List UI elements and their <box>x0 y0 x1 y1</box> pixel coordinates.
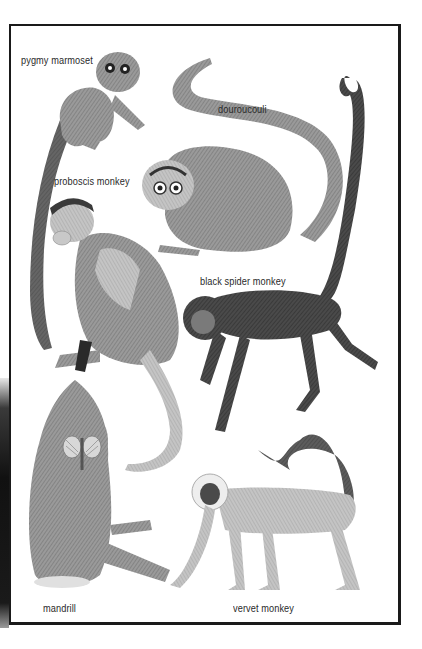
label-black-spider-monkey: black spider monkey <box>200 276 286 287</box>
douroucouli-illustration <box>142 58 343 256</box>
label-vervet-monkey: vervet monkey <box>233 603 294 614</box>
vervet-monkey-illustration <box>170 435 360 590</box>
monkey-illustrations <box>0 0 422 649</box>
label-proboscis-monkey: proboscis monkey <box>54 176 130 187</box>
mandrill-illustration <box>29 380 170 588</box>
label-pygmy-marmoset: pygmy marmoset <box>21 55 93 66</box>
black-spider-monkey-illustration <box>183 76 378 432</box>
label-mandrill: mandrill <box>43 603 76 614</box>
label-douroucouli: douroucouli <box>218 104 267 115</box>
